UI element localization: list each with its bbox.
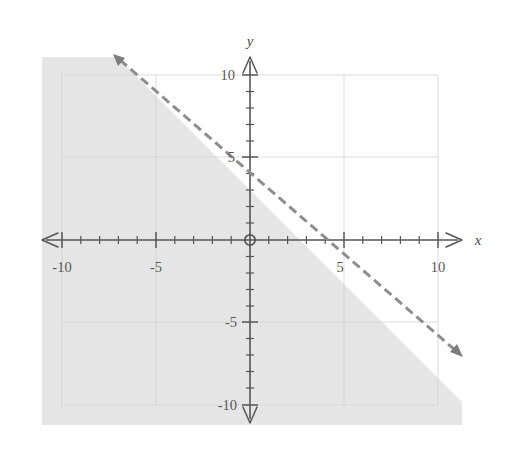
inequality-graph-figure: y x -10 -5 5 10 10 5 -5 -10	[0, 0, 506, 454]
y-tick-label-neg5: -5	[225, 314, 237, 330]
y-tick-label-neg10: -10	[218, 397, 237, 413]
shaded-solution-region	[42, 57, 462, 425]
coordinate-plane-svg: y x -10 -5 5 10 10 5 -5 -10	[0, 0, 506, 454]
x-tick-label-neg5: -5	[150, 259, 162, 275]
x-tick-label-neg10: -10	[52, 259, 71, 275]
y-tick-label-pos5: 5	[228, 149, 235, 165]
x-tick-label-pos10: 10	[431, 259, 446, 275]
y-tick-label-pos10: 10	[221, 67, 236, 83]
y-axis-label: y	[245, 33, 254, 49]
x-tick-label-pos5: 5	[336, 259, 343, 275]
x-axis-label: x	[474, 232, 482, 248]
